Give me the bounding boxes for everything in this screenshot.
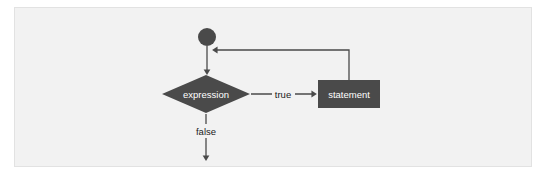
- edge-label-true: true: [275, 89, 291, 100]
- flowchart-diagram: expression true statement false: [0, 0, 548, 177]
- edge-label-false: false: [196, 126, 216, 137]
- statement-label: statement: [328, 89, 370, 100]
- edge-loop-back: [216, 50, 349, 80]
- start-node-circle: [198, 28, 216, 46]
- condition-label: expression: [183, 89, 229, 100]
